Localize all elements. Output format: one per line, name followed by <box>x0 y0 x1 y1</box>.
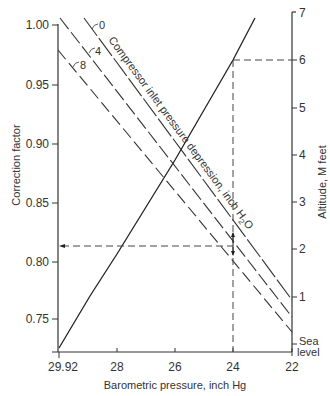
guide-lines <box>62 60 292 352</box>
curve-4-label: 4 <box>95 45 101 57</box>
x-tick-label: 28 <box>110 360 124 374</box>
x-tick-label: 26 <box>168 360 182 374</box>
bottom-tick-labels: 29.92 28 26 24 22 <box>48 360 299 374</box>
sea-level-label: level <box>297 346 320 358</box>
y-tick-label: 0.75 <box>26 312 50 326</box>
bottom-ticks <box>59 348 292 358</box>
curve-4 <box>60 18 292 317</box>
x-axis-title: Barometric pressure, inch Hg <box>104 379 246 391</box>
y-axis-title: Correction factor <box>10 124 22 206</box>
y2-tick-label: 4 <box>299 148 306 162</box>
y2-tick-label: 7 <box>299 6 306 20</box>
y2-tick-label: 3 <box>299 195 306 209</box>
curve-8 <box>58 50 292 332</box>
y2-tick-label: 2 <box>299 242 306 256</box>
y2-tick-label: 5 <box>299 101 306 115</box>
curve-0-label: 0 <box>99 19 105 31</box>
x-tick-label: 22 <box>285 360 299 374</box>
y-tick-label: 0.95 <box>26 78 50 92</box>
y-tick-label: 0.90 <box>26 137 50 151</box>
y-tick-label: 0.85 <box>26 196 50 210</box>
y2-axis-title: Altitude, M feet <box>316 145 328 218</box>
chart: 1.00 0.95 0.90 0.85 0.80 0.75 29.92 28 2… <box>0 0 330 396</box>
curve-8-label: 8 <box>80 59 86 71</box>
axes <box>52 12 296 352</box>
y-tick-label: 0.80 <box>26 255 50 269</box>
right-ticks <box>292 60 297 344</box>
left-tick-labels: 1.00 0.95 0.90 0.85 0.80 0.75 <box>26 18 50 326</box>
y-tick-label: 1.00 <box>26 18 50 32</box>
left-ticks <box>52 25 58 319</box>
left-arrow-icon <box>59 244 65 248</box>
x-tick-label: 29.92 <box>48 360 78 374</box>
down-arrow-icon <box>231 251 235 256</box>
y2-tick-label: 6 <box>299 53 306 67</box>
x-tick-label: 24 <box>226 360 240 374</box>
y2-tick-label: 1 <box>299 290 306 304</box>
up-arrow-icon <box>231 232 235 237</box>
